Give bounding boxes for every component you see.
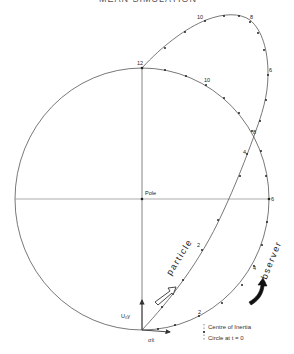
particle-label-4: 4: [243, 149, 246, 155]
sigma-label: σx̄: [148, 337, 154, 343]
particle-label-2: 2: [197, 242, 200, 248]
legend-dot-icon: [203, 331, 205, 333]
circle-label-10: 10: [204, 77, 210, 83]
legend-circle-at-t0: Circle at t = 0: [208, 335, 244, 341]
particle-label-10: 10: [197, 14, 203, 20]
circle-label-8: 8: [253, 129, 256, 135]
circle-time-markers: [141, 67, 271, 330]
circle-label-12: 12: [137, 60, 143, 66]
legend: Centre of Inertia Circle at t = 0: [203, 324, 252, 341]
sigma-arrow: [142, 330, 170, 332]
particle-label-8: 8: [250, 14, 253, 20]
particle-hollow-arrow-icon: [155, 287, 176, 305]
particle-label-6: 6: [269, 67, 272, 73]
circle-label-4: 4: [253, 265, 256, 271]
circle-label-2: 2: [198, 309, 201, 315]
circle-label-6: 6: [271, 196, 274, 202]
velocity-label: U₀y: [121, 313, 130, 319]
particle-trajectory: [142, 15, 268, 330]
inertial-circle-diagram: Pole: [0, 0, 294, 354]
legend-centre-of-inertia: Centre of Inertia: [208, 324, 252, 330]
pole-label: Pole: [145, 190, 156, 196]
pole-point: [141, 198, 144, 201]
